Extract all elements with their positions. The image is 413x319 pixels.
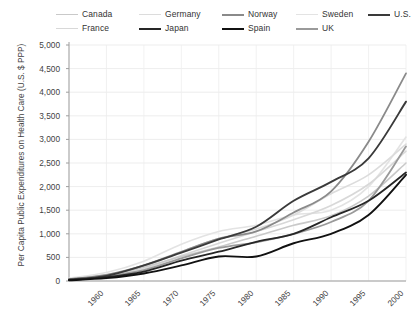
series-line-us	[69, 102, 406, 280]
plot-area: Per Capita Public Expenditures on Health…	[0, 0, 413, 319]
series-line-japan	[69, 172, 406, 280]
series-line-france	[69, 151, 406, 279]
chart-figure: CanadaGermanyNorwaySwedenU.S. FranceJapa…	[0, 0, 413, 319]
chart-canvas	[0, 0, 413, 319]
series-line-uk	[69, 146, 406, 279]
series-line-norway	[69, 73, 406, 279]
series-line-canada	[69, 163, 406, 279]
